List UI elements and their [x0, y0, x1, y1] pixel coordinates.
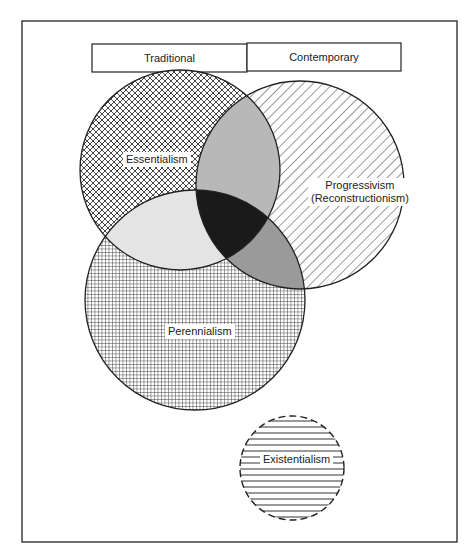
existentialism-label: Existentialism — [260, 452, 333, 467]
progressivism-label-line2: (Reconstructionism) — [311, 192, 409, 205]
perennialism-label: Perennialism — [165, 324, 235, 339]
essentialism-label: Essentialism — [123, 152, 191, 167]
existentialism-circle — [240, 416, 344, 520]
progressivism-label: Progressivism (Reconstructionism) — [308, 178, 412, 206]
header-traditional-label: Traditional — [92, 44, 247, 72]
progressivism-label-line1: Progressivism — [311, 179, 409, 192]
header-contemporary-label: Contemporary — [247, 43, 401, 71]
venn-diagram-figure: Traditional Contemporary Essentialism Pr… — [0, 0, 476, 558]
